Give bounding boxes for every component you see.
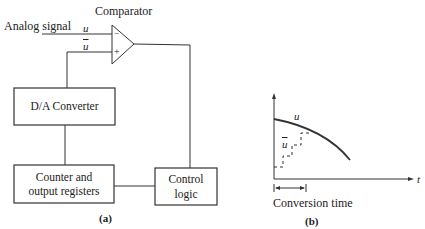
minus-sign: − (114, 29, 119, 38)
staircase-approximation (274, 131, 309, 167)
staircase-u-bar-label: u (282, 139, 288, 150)
analog-signal-label: Analog signal (4, 20, 71, 32)
u-input-label: u (83, 23, 89, 34)
caption-b: (b) (305, 216, 318, 227)
x-axis-arrow-icon (408, 177, 414, 181)
caption-a: (a) (99, 213, 112, 224)
y-axis-arrow-icon (272, 93, 276, 99)
control-label-line1: Control (168, 172, 203, 186)
plus-sign: + (114, 47, 120, 57)
arrow-left-icon (275, 186, 280, 190)
comparator-output-line (134, 44, 190, 168)
control-label-line2: logic (175, 187, 198, 201)
arrow-right-icon (300, 186, 305, 190)
feedback-line (67, 52, 112, 88)
curve-u-label: u (294, 111, 300, 122)
u-bar-input-label: u (83, 41, 89, 52)
conversion-time-label: Conversion time (273, 197, 353, 209)
da-converter-label: D/A Converter (14, 88, 115, 125)
comparator-label: Comparator (95, 5, 152, 17)
counter-label-line1: Counter and (36, 170, 93, 184)
counter-label-line2: output registers (28, 184, 99, 198)
control-logic-label: Control logic (155, 168, 217, 205)
counter-label: Counter and output registers (14, 165, 114, 203)
t-axis-label: t (417, 174, 420, 185)
